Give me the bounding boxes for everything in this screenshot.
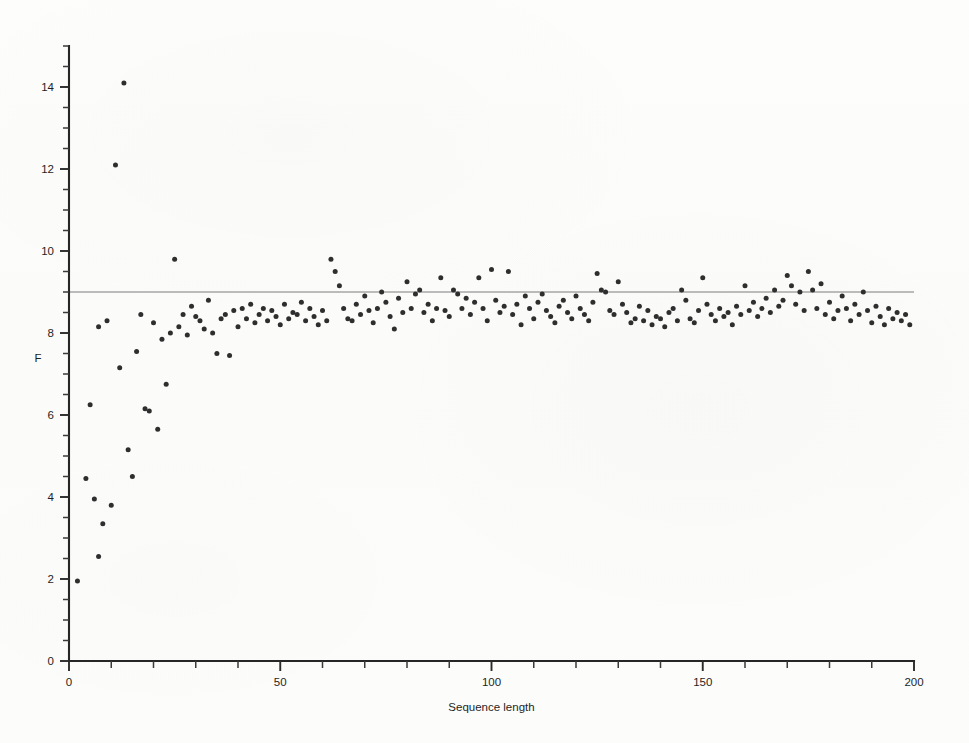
data-point — [878, 314, 883, 319]
data-point — [138, 312, 143, 317]
data-point — [172, 257, 177, 262]
data-point — [286, 316, 291, 321]
data-point — [827, 300, 832, 305]
data-point — [527, 306, 532, 311]
data-point — [447, 314, 452, 319]
data-point — [105, 318, 110, 323]
data-point — [781, 298, 786, 303]
data-point — [772, 287, 777, 292]
data-point — [873, 304, 878, 309]
data-point — [282, 302, 287, 307]
data-point — [413, 292, 418, 297]
data-point — [155, 427, 160, 432]
data-point — [240, 306, 245, 311]
data-point — [489, 267, 494, 272]
data-point — [586, 318, 591, 323]
data-point — [468, 312, 473, 317]
data-point — [789, 283, 794, 288]
data-point — [852, 302, 857, 307]
data-point — [434, 306, 439, 311]
data-point — [519, 322, 524, 327]
data-point — [316, 322, 321, 327]
data-point — [337, 283, 342, 288]
x-tick-label: 200 — [904, 676, 923, 688]
data-point — [903, 312, 908, 317]
data-point — [865, 308, 870, 313]
data-point — [506, 269, 511, 274]
data-point — [797, 290, 802, 295]
data-point — [802, 308, 807, 313]
data-point — [214, 351, 219, 356]
data-point — [890, 316, 895, 321]
data-point — [776, 304, 781, 309]
data-point — [100, 521, 105, 526]
data-point — [666, 310, 671, 315]
data-point — [117, 365, 122, 370]
data-point — [278, 322, 283, 327]
data-point — [645, 308, 650, 313]
data-point — [658, 316, 663, 321]
data-point — [83, 476, 88, 481]
data-point — [502, 304, 507, 309]
data-point — [785, 273, 790, 278]
data-point — [569, 316, 574, 321]
y-axis-title: F — [34, 352, 41, 364]
y-tick-label: 10 — [41, 245, 54, 257]
y-tick-label: 6 — [48, 409, 54, 421]
data-point — [578, 306, 583, 311]
data-point — [113, 162, 118, 167]
data-point — [219, 316, 224, 321]
data-point — [671, 306, 676, 311]
data-point — [861, 290, 866, 295]
data-point — [185, 333, 190, 338]
y-tick-label: 14 — [41, 81, 54, 93]
tick-marks-group — [60, 46, 914, 671]
data-point — [426, 302, 431, 307]
data-point — [688, 316, 693, 321]
data-point — [181, 312, 186, 317]
data-point — [358, 312, 363, 317]
data-point — [620, 302, 625, 307]
data-point — [307, 306, 312, 311]
data-point — [590, 300, 595, 305]
data-point — [607, 308, 612, 313]
data-point — [535, 300, 540, 305]
data-point — [438, 275, 443, 280]
data-point — [96, 554, 101, 559]
y-tick-label: 0 — [48, 655, 54, 667]
data-point — [96, 324, 101, 329]
data-point — [409, 306, 414, 311]
data-point — [730, 322, 735, 327]
data-point — [189, 304, 194, 309]
data-point — [244, 316, 249, 321]
data-point — [835, 308, 840, 313]
data-point — [193, 314, 198, 319]
data-point — [354, 302, 359, 307]
data-point — [206, 298, 211, 303]
data-point — [257, 312, 262, 317]
data-point — [823, 312, 828, 317]
data-point — [633, 316, 638, 321]
data-point — [430, 318, 435, 323]
data-point — [679, 287, 684, 292]
data-point — [147, 408, 152, 413]
y-tick-label: 2 — [48, 573, 54, 585]
data-point — [650, 322, 655, 327]
data-point — [759, 306, 764, 311]
data-point — [459, 306, 464, 311]
data-point — [523, 294, 528, 299]
data-point — [265, 318, 270, 323]
data-point — [814, 306, 819, 311]
data-point — [464, 296, 469, 301]
data-point — [557, 304, 562, 309]
data-point — [227, 353, 232, 358]
data-point — [869, 320, 874, 325]
data-point — [400, 310, 405, 315]
data-point — [312, 314, 317, 319]
data-point — [176, 324, 181, 329]
data-point — [561, 298, 566, 303]
data-point — [497, 310, 502, 315]
data-point — [713, 318, 718, 323]
axes-group — [69, 46, 914, 661]
data-point — [683, 298, 688, 303]
